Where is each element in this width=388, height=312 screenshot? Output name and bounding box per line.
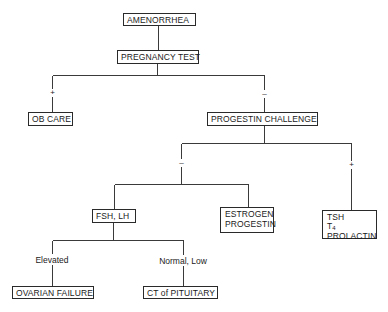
node-t4-subscript: 4 xyxy=(332,225,335,231)
node-tsh-t4-prolactin: TSH T4 PROLACTIN xyxy=(322,210,377,239)
edge-label-elevated: Elevated xyxy=(35,255,68,265)
node-ovarian-failure: OVARIAN FAILURE xyxy=(12,286,94,299)
node-prolactin-line: PROLACTIN xyxy=(327,232,372,241)
edge-label-normal-low: Normal, Low xyxy=(159,256,207,266)
node-ct-pituitary: CT of PITUITARY xyxy=(143,286,218,299)
node-ob-care: OB CARE xyxy=(28,112,73,126)
edge-label-pregnancy-positive: + xyxy=(49,89,56,97)
node-fsh-lh: FSH, LH xyxy=(92,209,136,223)
node-tsh-line: TSH xyxy=(327,213,372,222)
node-amenorrhea: AMENORRHEA xyxy=(123,13,196,26)
edge-label-progestin-negative: – xyxy=(178,159,184,167)
edge-label-pregnancy-negative: – xyxy=(261,90,267,98)
node-progestin-line: PROGESTIN xyxy=(225,220,269,230)
edge-label-progestin-positive: + xyxy=(348,161,355,169)
node-estrogen-progestin: ESTROGEN PROGESTIN xyxy=(220,207,274,233)
node-progestin-challenge: PROGESTIN CHALLENGE xyxy=(207,112,318,126)
node-pregnancy-test: PREGNANCY TEST xyxy=(117,50,199,64)
